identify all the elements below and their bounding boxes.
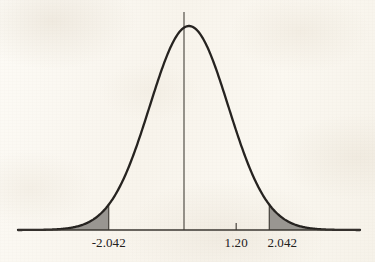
test-statistic-label: 1.20	[225, 235, 248, 251]
normal-curve-path	[18, 26, 360, 230]
critical-value-lines	[109, 205, 270, 230]
left-critical-value-label: -2.042	[92, 235, 126, 251]
normal-distribution-chart	[0, 0, 375, 262]
shaded-tails	[18, 205, 360, 230]
right-critical-value-label: 2.042	[267, 235, 297, 251]
